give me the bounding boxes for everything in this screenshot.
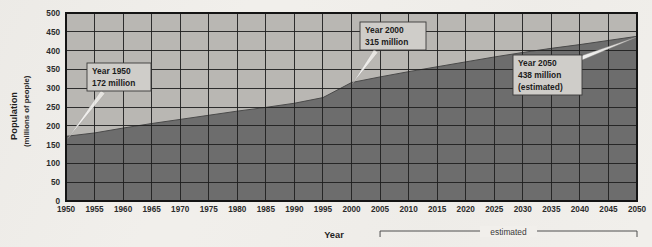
callout-2050-line1: Year 2050 [518, 58, 557, 68]
x-tick-2000: 2000 [342, 205, 361, 214]
x-tick-2050: 2050 [628, 205, 647, 214]
callout-2050-line3: (estimated) [518, 82, 563, 92]
y-tick-50: 50 [51, 178, 61, 187]
estimated-bracket-group: estimated [380, 226, 637, 237]
y-axis-title: Population [9, 92, 19, 140]
x-tick-2035: 2035 [542, 205, 561, 214]
x-tick-1995: 1995 [314, 205, 333, 214]
y-tick-400: 400 [46, 47, 60, 56]
x-axis-tick-labels: 1950195519601965197019751980198519901995… [57, 205, 647, 214]
chart-page: 050100150200250300350400450500 195019551… [0, 0, 652, 247]
y-axis-title-group: Population (millions of people) [9, 75, 31, 147]
callout-1950-line2: 172 million [92, 78, 135, 88]
y-tick-200: 200 [46, 122, 60, 131]
y-tick-500: 500 [46, 9, 60, 18]
x-tick-1990: 1990 [285, 205, 304, 214]
x-tick-2020: 2020 [457, 205, 476, 214]
x-tick-1980: 1980 [228, 205, 247, 214]
x-tick-1985: 1985 [257, 205, 276, 214]
y-tick-300: 300 [46, 84, 60, 93]
y-tick-100: 100 [46, 159, 60, 168]
callout-2000-line1: Year 2000 [365, 25, 404, 35]
x-tick-2015: 2015 [428, 205, 447, 214]
x-tick-1970: 1970 [171, 205, 190, 214]
callout-2050: Year 2050 438 million (estimated) [513, 55, 582, 95]
x-axis-title: Year [324, 230, 344, 240]
x-tick-2045: 2045 [599, 205, 618, 214]
x-tick-2025: 2025 [485, 205, 504, 214]
estimated-bracket-label: estimated [490, 227, 527, 237]
x-tick-2010: 2010 [399, 205, 418, 214]
callout-2000: Year 2000 315 million [360, 22, 426, 50]
y-tick-350: 350 [46, 65, 60, 74]
callout-1950-line1: Year 1950 [92, 66, 131, 76]
x-tick-2040: 2040 [571, 205, 590, 214]
callout-2000-line2: 315 million [365, 37, 408, 47]
x-tick-1950: 1950 [57, 205, 76, 214]
x-tick-1965: 1965 [143, 205, 162, 214]
y-tick-250: 250 [46, 103, 60, 112]
y-tick-450: 450 [46, 28, 60, 37]
callout-1950: Year 1950 172 million [87, 63, 151, 91]
x-tick-2030: 2030 [514, 205, 533, 214]
x-tick-1955: 1955 [85, 205, 104, 214]
y-axis-subtitle: (millions of people) [22, 75, 31, 147]
x-tick-1975: 1975 [200, 205, 219, 214]
x-tick-1960: 1960 [114, 205, 133, 214]
callout-2050-line2: 438 million [518, 70, 561, 80]
population-area-chart: 050100150200250300350400450500 195019551… [0, 0, 652, 247]
y-axis-tick-labels: 050100150200250300350400450500 [46, 9, 60, 206]
x-tick-2005: 2005 [371, 205, 390, 214]
y-tick-150: 150 [46, 141, 60, 150]
